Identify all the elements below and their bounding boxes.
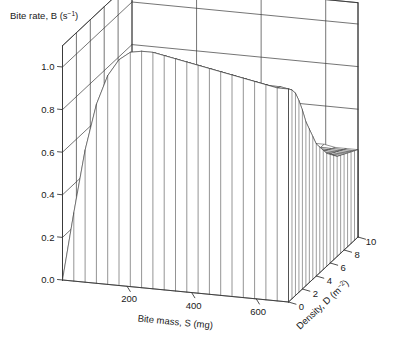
x-axis-title: Bite mass, S (mg) [137,312,213,330]
y-tick [289,302,297,304]
z-tick-label: 0.2 [41,232,54,243]
y-tick [358,237,366,239]
y-tick [330,263,338,265]
y-tick [344,250,352,252]
surface-plot-figure: 1.00.80.60.40.20.02004006000246810Bite r… [0,0,409,354]
y-tick-label: 6 [341,262,346,273]
x-tick [192,293,195,298]
wall-gridline-back [132,2,358,24]
x-tick-label: 600 [250,306,266,317]
surface-mesh [63,51,359,302]
x-tick-label: 200 [121,293,137,304]
z-tick [58,280,63,281]
z-tick [58,67,63,68]
wall-gridline-back [132,0,358,3]
y-tick-label: 4 [327,275,332,286]
y-tick-label: 0 [299,301,304,312]
x-tick-label: 400 [186,300,202,311]
y-tick-label: 2 [313,288,318,299]
x-tick [256,299,259,304]
z-tick [58,194,63,195]
z-tick [58,109,63,110]
z-axis-title: Bite rate, B (s−1) [10,10,78,21]
z-tick [58,237,63,238]
y-tick-label: 10 [366,236,377,247]
z-tick-label: 1.0 [41,61,54,72]
z-tick-label: 0.0 [41,274,54,285]
z-tick-label: 0.6 [41,147,54,158]
plot-canvas: 1.00.80.60.40.20.02004006000246810Bite r… [0,0,409,354]
y-tick [302,289,310,291]
x-tick [127,286,130,291]
z-tick-label: 0.4 [41,189,54,200]
y-tick [316,276,324,278]
wall-gridline-left [63,0,133,46]
y-tick-label: 8 [354,249,359,260]
z-tick [58,152,63,153]
z-tick-label: 0.8 [41,104,54,115]
